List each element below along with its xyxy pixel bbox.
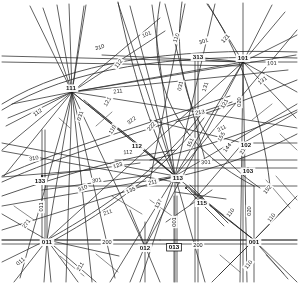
line-arrangement-svg: 1011011121122112112112111101101101101100…	[0, 0, 298, 283]
edge-label: 020	[236, 96, 243, 109]
node-label-102: 102	[239, 141, 254, 149]
node-label-115: 115	[195, 199, 210, 207]
edge-label-text: 031	[76, 110, 85, 121]
edge-label: 020	[246, 205, 253, 218]
node-label-103: 103	[241, 167, 256, 175]
node-label-133: 133	[33, 177, 48, 185]
edge-label: 110	[242, 257, 255, 271]
edge-label: 200	[192, 242, 205, 249]
node-label-112: 112	[130, 142, 145, 150]
edge-label: 011	[38, 201, 45, 214]
node-label-text: 013	[169, 243, 180, 250]
node-label-text: 111	[66, 84, 76, 91]
edge-label-text: 200	[193, 242, 203, 248]
edge-label-text: 101	[267, 60, 277, 67]
edge-label: 123	[111, 160, 125, 171]
edge-label: 101	[140, 29, 154, 40]
node-label-text: 012	[140, 244, 151, 251]
node-label-text: 101	[238, 54, 249, 61]
edge-label: 131	[200, 80, 211, 94]
node-label-text: 112	[132, 142, 143, 149]
figure-canvas: 1011011121122112112112111101101101101100…	[0, 0, 298, 283]
edge-label-text: 301	[201, 159, 211, 166]
node-label-text: 103	[243, 167, 254, 174]
edge-label: 152	[261, 183, 274, 197]
edge-label-text: 211	[113, 88, 123, 95]
node-label-text: 133	[35, 177, 46, 184]
edge-label-text: 001	[171, 217, 177, 227]
edge-label-text: 310	[94, 43, 105, 51]
edge-label-text: 020	[236, 97, 242, 107]
node-label-111: 111	[64, 84, 79, 92]
node-label-101: 101	[236, 54, 251, 62]
node-label-text: 001	[249, 238, 260, 245]
edge-label: 211	[111, 87, 124, 95]
node-label-013: 013	[167, 243, 182, 251]
edge-label-text: 211	[102, 208, 113, 217]
edge-label: 301	[199, 158, 212, 166]
edge-label: 211	[101, 207, 115, 218]
edge-label: 101	[265, 59, 278, 67]
node-label-313: 313	[191, 53, 206, 61]
edge-label: 110	[106, 122, 119, 136]
edge-label: 137	[152, 197, 164, 211]
node-label-text: 115	[197, 199, 208, 206]
edge-label-text: 020	[246, 206, 252, 216]
edge-label-text: 301	[198, 37, 209, 46]
edge-label: 301	[197, 36, 211, 47]
node-label-113: 113	[171, 174, 186, 182]
node-label-011: 011	[40, 238, 55, 246]
edge-label-text: 011	[38, 202, 44, 211]
node-label-text: 102	[241, 141, 252, 148]
edge-label: 001	[171, 216, 178, 229]
edge-label-text: 131	[201, 81, 210, 92]
edge-label: 200	[101, 239, 114, 246]
edge-label: 322	[124, 114, 138, 127]
node-label-012: 012	[138, 244, 153, 252]
edge-label: 213	[193, 108, 206, 117]
edge-label: 271	[20, 216, 33, 230]
node-label-text: 313	[193, 53, 204, 60]
node-label-text: 011	[42, 238, 53, 245]
edge-label-text: 200	[102, 239, 112, 245]
node-label-text: 113	[173, 174, 184, 181]
edge-label: 301	[90, 176, 104, 185]
edge-label: 011	[14, 255, 28, 268]
edge-label: 211	[74, 259, 87, 273]
edge-label: 310	[27, 154, 41, 163]
node-label-001: 001	[247, 238, 262, 246]
edge-label: 031	[176, 79, 185, 93]
edge-label: 310	[93, 42, 107, 52]
